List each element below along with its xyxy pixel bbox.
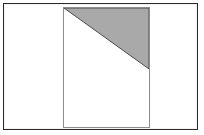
figure-screenshot — [0, 0, 204, 135]
shaded-right-triangle — [64, 8, 149, 127]
figure-border — [3, 3, 198, 130]
triangle-polygon — [64, 8, 149, 69]
sheet-rectangle — [63, 7, 150, 128]
